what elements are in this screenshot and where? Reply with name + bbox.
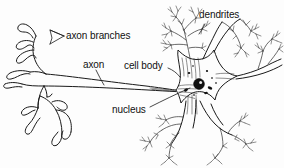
label-nucleus: nucleus [112,104,146,115]
label-axon: axon [83,59,104,70]
neuron-drawing [0,0,284,168]
nucleus-shape [194,79,205,90]
leader-axon-branches [50,30,64,44]
dendrite-tree-bottom-right [200,101,256,165]
leader-dendrites [199,24,205,34]
label-axon-branches: axon branches [66,30,130,41]
axon-shape [44,74,176,92]
leader-axon [96,70,104,85]
dendrite-tree-far-right [236,31,283,79]
label-cell-body: cell body [124,60,163,71]
neuron-diagram: axon branches axon cell body nucleus den… [0,0,284,168]
label-dendrites: dendrites [199,9,239,20]
axon-terminal-branches [4,24,72,146]
leader-cell-body [168,68,180,77]
